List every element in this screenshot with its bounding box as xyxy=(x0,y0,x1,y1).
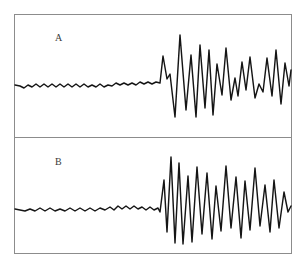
waveform-trace-b xyxy=(15,157,291,244)
figure-root: A B xyxy=(0,0,306,270)
waveform-trace-a xyxy=(15,35,291,117)
panel-a-label: A xyxy=(55,33,63,43)
waveform-trace-layer xyxy=(0,0,306,270)
panel-b-label: B xyxy=(55,157,62,167)
